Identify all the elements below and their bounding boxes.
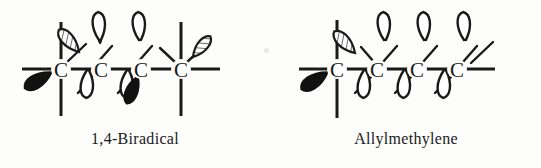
p-lobe-c2-up xyxy=(92,12,106,44)
p-lobe-c2-up xyxy=(377,12,391,41)
stem-c2-up xyxy=(383,46,397,62)
hatched-lobe-c2 xyxy=(330,27,360,57)
structure-biradical: C C C C 1,4-Biradical xyxy=(0,0,270,168)
atom-label-c3: C xyxy=(134,58,148,82)
allylmethylene-diagram: C C C C xyxy=(271,0,541,132)
hatched-lobe-c1 xyxy=(54,26,83,56)
hatched-lobe-group xyxy=(330,27,360,57)
atom-label-c1: C xyxy=(54,58,68,82)
atom-label-c4: C xyxy=(450,58,464,82)
stem-c3-up xyxy=(423,46,437,62)
p-lobe-c4-up xyxy=(457,12,471,41)
p-lobe-c2-down xyxy=(80,70,94,99)
structure-allylmethylene: C C C C Allylmethylene xyxy=(271,0,541,168)
carbene-lobe-c1 xyxy=(297,66,331,95)
biradical-diagram: C C C C xyxy=(0,0,270,132)
print-speck xyxy=(264,48,269,53)
p-lobe-c3-up xyxy=(417,12,431,41)
atom-label-c2: C xyxy=(370,58,384,82)
atom-label-c1: C xyxy=(330,58,344,82)
caption-biradical: 1,4-Biradical xyxy=(0,130,270,148)
caption-allylmethylene: Allylmethylene xyxy=(271,130,541,148)
p-lobe-c3-up xyxy=(132,12,146,41)
atom-label-c4: C xyxy=(174,58,188,82)
atom-label-c3: C xyxy=(410,58,424,82)
hatched-lobe-c4 xyxy=(189,33,214,60)
open-lobe-group xyxy=(357,12,471,99)
atom-label-c2: C xyxy=(94,58,108,82)
solid-lobe-group xyxy=(297,66,331,95)
stem-c4-upright xyxy=(471,42,493,63)
orbital-figure: C C C C 1,4-Biradical xyxy=(0,0,541,168)
